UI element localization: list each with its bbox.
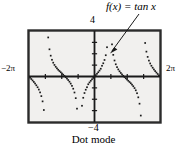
curve-dot [69,81,71,83]
curve-dot [102,62,104,64]
curve-dot [115,63,117,65]
curve-dot [50,55,52,57]
curve-dot [147,56,149,58]
curve-dot [82,97,84,99]
curve-dot [54,64,56,66]
curve-dot [117,69,119,71]
curve-dot [111,44,113,46]
curve-dot [38,89,40,91]
curve-dot [149,63,151,65]
curve-dot [37,86,39,88]
figure-caption: Dot mode [0,134,187,145]
curve-dot [112,54,114,56]
curve-dot [87,83,89,85]
curve-dot [148,60,150,62]
curve-dot [97,71,99,73]
curve-dot [86,86,88,88]
curve-dot [47,37,49,39]
x-max-label: 2π [166,64,175,73]
curve-dot [72,88,74,90]
curve-dot [119,70,121,72]
function-label: f(x) = tan x [106,1,156,12]
curve-dot [33,81,35,83]
curve-dot [34,83,36,85]
curve-dot [90,80,92,82]
curve-dot [52,62,54,64]
curve-dot [75,97,77,99]
curve-dot [100,68,102,70]
curve-dot [106,46,108,48]
curve-dot [76,108,78,110]
y-min-label: −4 [88,123,99,133]
curve-dot [43,109,45,111]
curve-dot [151,65,153,67]
curve-dot [42,101,44,103]
graphing-calculator-figure: f(x) = tan x 4 −4 −2π 2π Dot mode [0,0,187,150]
y-max-label: 4 [90,15,95,25]
curve-dot [132,85,134,87]
curve-dot [39,92,41,94]
curve-dot [134,87,136,89]
curve-dot [135,89,137,91]
curve-dot [153,69,155,71]
curve-dot [99,70,101,72]
curve-dot [154,70,156,72]
curve-dot [140,115,142,117]
curve-dot [105,54,107,56]
curve-dot [139,103,141,105]
curve-dot [84,92,86,94]
curve-dot [67,79,69,81]
curve-dot [74,92,76,94]
curve-dot [66,78,68,80]
curve-dot [35,84,37,86]
curve-dot [146,51,148,53]
curve-dot [81,105,83,107]
curve-dot [101,65,103,67]
curve-dot [71,85,73,87]
curve-dot [152,67,154,69]
curve-dot [85,89,87,91]
curve-dot [49,48,51,50]
x-min-label: −2π [1,64,15,73]
curve-dot [104,59,106,61]
curve-dot [137,96,139,98]
curve-dot [114,60,116,62]
curve-dot [89,82,91,84]
curve-dot [55,66,57,68]
curve-dot [116,66,118,68]
curve-dot [136,92,138,94]
curve-dot [120,72,122,74]
curve-dot [158,75,160,77]
curve-dot [51,59,53,61]
curve-dot [32,80,34,82]
curve-dot [96,73,98,75]
curve-dot [40,95,42,97]
curve-dot [131,84,133,86]
curve-dot [70,83,72,85]
curve-dot [144,42,146,44]
